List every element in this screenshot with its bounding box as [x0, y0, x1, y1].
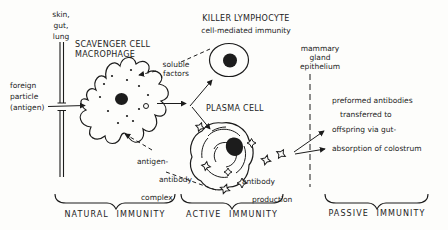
antibody-icon — [194, 121, 206, 133]
soluble-factors-label: soluble factors — [163, 60, 190, 78]
active-immunity-label: ACTIVE IMMUNITY — [186, 210, 278, 220]
skin-barrier-lines — [58, 42, 67, 177]
complex-line-1: antigen- — [137, 157, 192, 166]
complex-line-3: complex — [141, 193, 192, 202]
natural-immunity-label: NATURAL IMMUNITY — [64, 210, 165, 220]
to-lymphocyte-arrow — [190, 80, 212, 106]
macrophage-cell — [80, 57, 168, 143]
immunity-diagram: skin, gut, lung foreign particle (antige… — [0, 0, 448, 230]
to-offspring-arrow — [294, 131, 324, 152]
foreign-particle-label: foreign particle (antigen) — [10, 80, 44, 113]
preformed-antibodies-line: preformed antibodies — [332, 96, 413, 107]
killer-lymphocyte-cell — [210, 44, 249, 77]
macrophage-vacuole — [144, 104, 149, 109]
mammary-epithelium-label: mammary gland epithelium — [300, 44, 340, 71]
soluble-to-macrophage-dash-arrow — [139, 71, 156, 75]
passive-immunity-label: PASSIVE IMMUNITY — [328, 209, 425, 219]
cell-mediated-immunity-label: cell-mediated immunity — [201, 26, 290, 37]
antigen-antibody-complex-label: antigen- antibody complex — [137, 148, 192, 211]
lymphocyte-nucleus — [223, 54, 237, 68]
absorption-colostrum-line: absorption of colostrum — [332, 144, 421, 155]
antibody-icon — [219, 183, 232, 196]
killer-lymphocyte-label: KILLER LYMPHOCYTE — [202, 14, 289, 24]
transferred-to-line: transferred to — [340, 110, 392, 121]
passive-immunity-brace — [325, 194, 428, 209]
complex-line-2: antibody — [159, 175, 192, 184]
antibody-icon — [224, 168, 232, 176]
antibody-production-line-2: production — [252, 195, 292, 204]
antibody-icon — [201, 161, 211, 171]
antigen-entry-arrow — [48, 106, 85, 107]
scavenger-macrophage-label: SCAVENGER CELL MACROPHAGE — [75, 40, 150, 60]
barrier-label: skin, gut, lung — [52, 9, 69, 42]
macrophage-nucleus — [115, 93, 128, 105]
antibody-production-line-1: antibody — [242, 177, 292, 186]
plasma-cell-label: PLASMA CELL — [206, 104, 264, 114]
plasma-cell-nucleus — [226, 137, 243, 156]
antibody-production-label: antibody production — [242, 168, 292, 213]
antibody-icon — [274, 147, 288, 161]
offspring-via-gut-line: offspring via gut- — [332, 125, 396, 136]
antibody-icon — [260, 154, 272, 166]
